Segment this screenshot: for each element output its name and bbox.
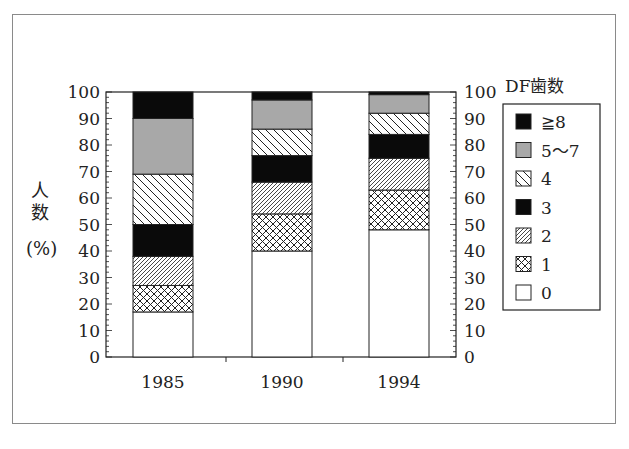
y-tick-label: 0: [89, 347, 100, 367]
legend-swatch: [516, 285, 531, 300]
y-tick-label: 30: [78, 268, 100, 288]
y-tick-label: 40: [78, 241, 100, 261]
bar-segment-1994-0: [369, 230, 429, 357]
bar-segment-1994-6: [369, 92, 429, 95]
y2-tick-label: 80: [464, 135, 486, 155]
y-tick-label: 60: [78, 188, 100, 208]
y-tick-label: 80: [78, 135, 100, 155]
bar-segment-1990-4: [252, 129, 312, 156]
bar-segment-1990-1: [252, 214, 312, 251]
bar-segment-1994-3: [369, 134, 429, 158]
legend-label: 5〜7: [541, 141, 580, 161]
bar-segment-1985-5: [133, 119, 193, 175]
legend-label: 1: [541, 255, 552, 275]
bar-segment-1985-2: [133, 256, 193, 285]
y2-tick-label: 70: [464, 162, 486, 182]
legend-swatch: [516, 228, 531, 243]
bar-segment-1985-0: [133, 312, 193, 357]
y-tick-label: 10: [78, 321, 100, 341]
x-tick-label: 1985: [141, 372, 184, 392]
bar-segment-1990-2: [252, 182, 312, 214]
y2-tick-label: 0: [464, 347, 475, 367]
bar-segment-1994-2: [369, 158, 429, 190]
x-tick-label: 1990: [260, 372, 303, 392]
legend-label: 3: [541, 198, 552, 218]
bar-segment-1994-4: [369, 113, 429, 134]
bar-segment-1985-1: [133, 285, 193, 312]
bar-segment-1994-5: [369, 95, 429, 114]
y2-tick-label: 20: [464, 294, 486, 314]
bar-segment-1994-1: [369, 190, 429, 230]
legend-swatch: [516, 143, 531, 158]
y2-tick-label: 100: [464, 82, 496, 102]
y2-tick-label: 10: [464, 321, 486, 341]
y2-tick-label: 30: [464, 268, 486, 288]
legend-swatch: [516, 114, 531, 129]
bar-segment-1990-6: [252, 92, 312, 100]
y-tick-label: 90: [78, 109, 100, 129]
y-tick-label: 50: [78, 215, 100, 235]
legend-label: ≧8: [541, 112, 566, 132]
y-tick-label: 100: [68, 82, 100, 102]
legend-swatch: [516, 200, 531, 215]
bar-segment-1985-4: [133, 174, 193, 224]
legend-swatch: [516, 171, 531, 186]
legend-label: 2: [541, 226, 552, 246]
y2-tick-label: 60: [464, 188, 486, 208]
legend-label: 4: [541, 169, 552, 189]
bar-segment-1985-6: [133, 92, 193, 119]
y2-tick-label: 40: [464, 241, 486, 261]
x-tick-label: 1994: [377, 372, 420, 392]
legend-swatch: [516, 257, 531, 272]
y-tick-label: 20: [78, 294, 100, 314]
bar-segment-1990-0: [252, 251, 312, 357]
bar-segment-1985-3: [133, 225, 193, 257]
stacked-bar-chart: 0010102020303040405050606070708080909010…: [0, 0, 629, 449]
y2-tick-label: 90: [464, 109, 486, 129]
y2-tick-label: 50: [464, 215, 486, 235]
bar-segment-1990-5: [252, 100, 312, 129]
legend-label: 0: [541, 283, 552, 303]
y-tick-label: 70: [78, 162, 100, 182]
bar-segment-1990-3: [252, 156, 312, 183]
